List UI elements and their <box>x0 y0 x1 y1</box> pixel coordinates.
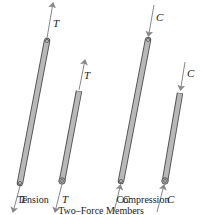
member-bar-fill <box>62 92 79 182</box>
force-label-top: C <box>156 11 164 23</box>
tension-long-member: T T <box>13 3 60 212</box>
member-bar-fill <box>165 94 180 182</box>
force-arrow-down-icon <box>149 5 155 36</box>
member-bar-fill <box>121 40 148 181</box>
two-force-members-diagram: T T T T Tension C C <box>0 0 202 215</box>
compression-label: Compression <box>117 194 170 205</box>
pin-cap <box>162 178 168 184</box>
compression-short-member: C C <box>157 62 195 212</box>
force-arrow-down-icon <box>181 62 186 90</box>
force-label-bottom: T <box>62 193 69 205</box>
tension-group: T T T T Tension <box>13 3 91 212</box>
member-bar-fill <box>20 41 47 183</box>
compression-group: C C C C Compression <box>114 5 195 212</box>
force-label-top: T <box>53 17 60 29</box>
force-label-top: C <box>187 67 195 79</box>
compression-long-member: C C <box>114 5 164 212</box>
figure-caption: Two–Force Members <box>58 205 144 215</box>
tension-short-member: T T <box>55 60 91 212</box>
force-label-top: T <box>84 69 91 81</box>
pin-cap <box>59 178 65 184</box>
tension-label: Tension <box>17 194 49 205</box>
